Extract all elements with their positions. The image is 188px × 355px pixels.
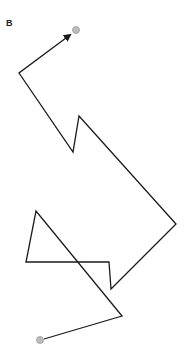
start-point-marker — [37, 337, 44, 344]
trajectory-diagram — [0, 0, 188, 355]
trajectory-path — [19, 35, 176, 339]
end-point-marker — [73, 27, 80, 34]
